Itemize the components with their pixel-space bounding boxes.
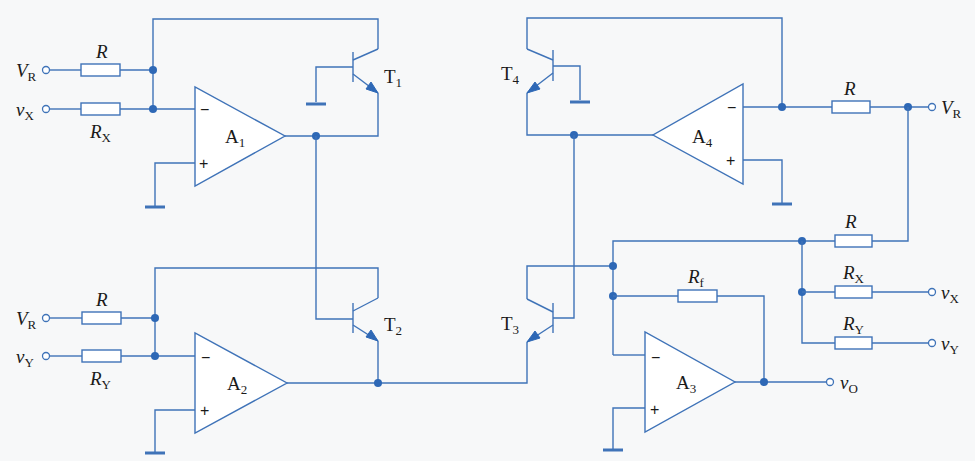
resistor-r-a2 bbox=[82, 312, 121, 324]
node-dot bbox=[151, 352, 159, 360]
a2-minus-sign: − bbox=[201, 349, 210, 366]
resistor-rx-sum bbox=[835, 286, 872, 298]
rf-label: Rf bbox=[687, 266, 705, 290]
resistor-ry-sum bbox=[835, 337, 872, 349]
transistor-t3 bbox=[527, 135, 574, 342]
node-dot bbox=[149, 105, 157, 113]
t3-label: T3 bbox=[501, 313, 519, 337]
resistor-rf bbox=[678, 290, 717, 302]
a4-minus-sign: − bbox=[727, 99, 736, 116]
vr-right-label: VR bbox=[941, 97, 962, 121]
a4-stage: T4 − + A4 R VR bbox=[501, 18, 962, 241]
r-a2-label: R bbox=[95, 289, 108, 310]
resistor-r-a4 bbox=[832, 101, 870, 113]
t1-label: T1 bbox=[384, 66, 402, 90]
a2-plus-sign: + bbox=[200, 402, 209, 419]
node-dot bbox=[374, 379, 382, 387]
terminal-vr-right[interactable] bbox=[929, 104, 936, 111]
resistor-r-a1 bbox=[81, 64, 120, 76]
resistor-rx-a1 bbox=[81, 103, 120, 115]
circuit-schematic: − + A1 T1 R RX VR vX bbox=[0, 0, 975, 461]
vy-left-label: vY bbox=[16, 346, 34, 370]
terminal-vo[interactable] bbox=[827, 379, 834, 386]
a1-plus-sign: + bbox=[199, 155, 208, 172]
t2-label: T2 bbox=[384, 314, 402, 338]
ry-a2-label: RY bbox=[89, 368, 112, 392]
node-dot bbox=[778, 103, 786, 111]
terminal-vy-left[interactable] bbox=[43, 353, 50, 360]
rx-sum-label: RX bbox=[842, 262, 865, 286]
a3-stage: T3 Rf − + A3 vO R RX vX bbox=[501, 135, 959, 450]
vr-top-left-label: VR bbox=[16, 60, 37, 84]
vr-bottom-left-label: VR bbox=[16, 308, 37, 332]
a4-plus-sign: + bbox=[726, 152, 735, 169]
r-a1-label: R bbox=[95, 41, 108, 62]
rx-a1-label: RX bbox=[89, 121, 112, 145]
transistor-t4 bbox=[527, 49, 590, 102]
resistor-ry-a2 bbox=[82, 350, 121, 362]
node-dot bbox=[609, 262, 617, 270]
transistor-t1 bbox=[306, 49, 378, 104]
node-dot bbox=[149, 66, 157, 74]
terminal-vr-bottom-left[interactable] bbox=[43, 315, 50, 322]
vy-right-label: vY bbox=[941, 333, 959, 357]
vx-left-label: vX bbox=[16, 99, 34, 123]
terminal-vr-top-left[interactable] bbox=[43, 67, 50, 74]
terminal-vx-left[interactable] bbox=[43, 106, 50, 113]
a1-stage: − + A1 T1 R RX VR vX bbox=[16, 19, 402, 207]
a1-minus-sign: − bbox=[200, 101, 209, 118]
a3-minus-sign: − bbox=[651, 349, 660, 366]
terminal-vy-right[interactable] bbox=[929, 340, 936, 347]
vx-right-label: vX bbox=[941, 282, 959, 306]
r-a4-label: R bbox=[843, 78, 856, 99]
ry-sum-label: RY bbox=[842, 313, 865, 337]
node-dot bbox=[151, 314, 159, 322]
transistor-t2 bbox=[316, 136, 378, 341]
terminal-vx-right[interactable] bbox=[929, 289, 936, 296]
t4-label: T4 bbox=[501, 63, 520, 87]
vo-label: vO bbox=[840, 372, 858, 396]
resistor-r-sum bbox=[835, 235, 872, 247]
r-sum-label: R bbox=[844, 211, 857, 232]
a2-stage: − + A2 T2 R RY VR vY bbox=[16, 136, 527, 453]
node-dot bbox=[760, 378, 768, 386]
a3-plus-sign: + bbox=[650, 401, 659, 418]
